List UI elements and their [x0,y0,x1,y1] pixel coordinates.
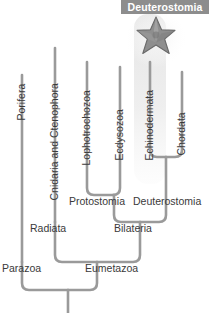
tip-label-echinodermata: Echinodermata [144,90,155,161]
tip-label-porifera: Porifera [16,84,27,121]
cladogram-figure: Deuterostomia Porifera Cnidaria and Cten… [0,0,212,313]
deuterostomia-banner: Deuterostomia [121,0,209,14]
node-label-deuterostomia: Deuterostomia [133,196,201,207]
tip-label-lophotrochozoa: Lophotrochozoa [81,90,92,165]
node-label-radiata: Radiata [30,223,66,234]
tip-label-ecdysozoa: Ecdysozoa [114,109,125,160]
node-label-eumetazoa: Eumetazoa [85,263,138,274]
node-label-bilateria: Bilateria [114,223,152,234]
node-label-parazoa: Parazoa [2,263,41,274]
tip-label-chordata: Chordata [176,112,187,155]
node-label-protostomia: Protostomia [69,196,125,207]
tip-label-cnidaria: Cnidaria and Ctenophora [49,83,60,200]
